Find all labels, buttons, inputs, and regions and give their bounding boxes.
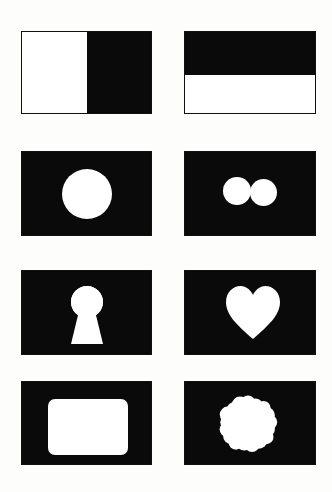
white-circle-right [250, 179, 277, 206]
panel-scalloped-blob [184, 381, 316, 465]
white-heart-shape [185, 271, 316, 355]
white-rounded-rectangle [48, 399, 128, 455]
white-circle-left [223, 177, 251, 205]
white-scalloped-blob-shape [185, 382, 316, 465]
white-circle [62, 169, 112, 219]
white-bottom-band [185, 75, 315, 113]
panel-single-circle [21, 151, 152, 236]
panel-vertical-bicolor [21, 31, 152, 114]
panel-keyhole [21, 270, 152, 355]
panel-rounded-rectangle [21, 381, 152, 465]
panel-horizontal-bicolor [184, 31, 316, 114]
figure-sheet [0, 0, 332, 492]
panel-heart [184, 270, 316, 355]
white-keyhole-shape [22, 271, 152, 355]
white-left-half [22, 32, 87, 113]
panel-two-circles [184, 151, 316, 236]
